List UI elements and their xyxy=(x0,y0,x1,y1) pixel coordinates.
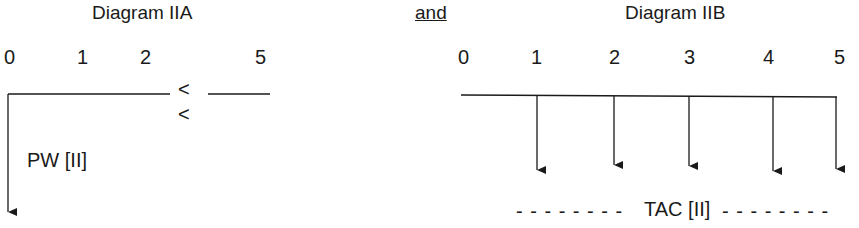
diagram-lines xyxy=(0,0,859,228)
timeline-b xyxy=(461,95,837,97)
